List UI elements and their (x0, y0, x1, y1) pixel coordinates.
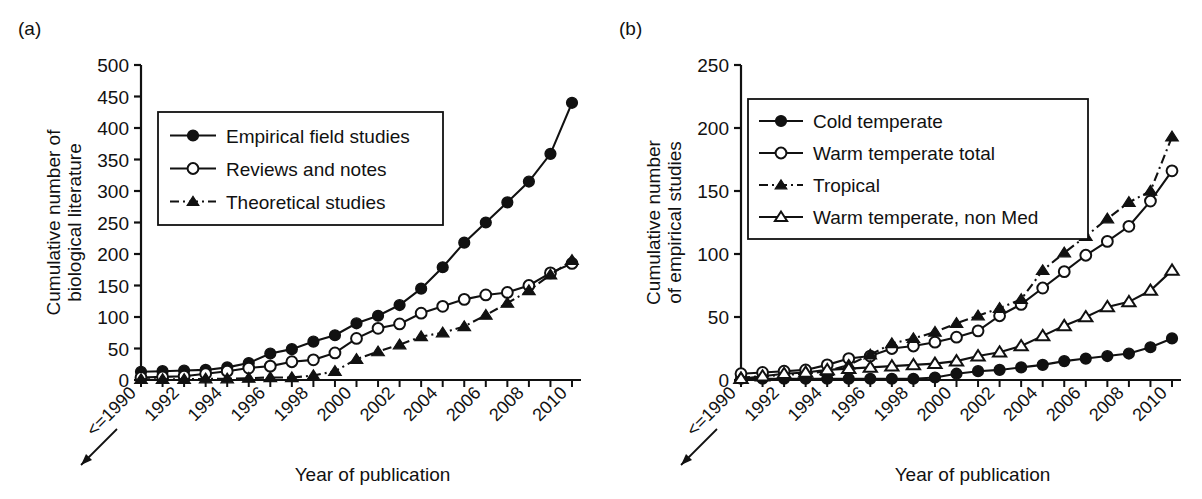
chart-panel-a: (a) 050100150200250300350400450500<=1990… (0, 0, 601, 499)
y-axis-title-group: Cumulative numberof empirical studies (643, 139, 685, 304)
x-tick-label: 2008 (485, 383, 527, 425)
x-tick-label: 2006 (442, 383, 484, 425)
data-point-marker (930, 337, 941, 348)
data-point-marker (951, 368, 962, 379)
x-tick-label: 1992 (740, 383, 782, 425)
data-point-marker (416, 308, 427, 319)
legend-label: Empirical field studies (226, 126, 410, 147)
data-point-marker (1122, 296, 1135, 306)
data-point-marker (1102, 351, 1113, 362)
y-axis-title-line1: Cumulative number of (43, 129, 64, 316)
data-point-marker (286, 356, 297, 367)
data-point-marker (1166, 131, 1179, 141)
data-point-marker (1124, 348, 1135, 359)
x-tick-label-group: 2008 (1085, 383, 1127, 425)
legend-label: Reviews and notes (226, 159, 387, 180)
data-point-marker (265, 361, 276, 372)
x-tick-label-group: 2004 (399, 383, 441, 425)
data-point-marker (973, 325, 984, 336)
data-point-marker (1036, 330, 1049, 340)
x-tick-label-group: 1992 (740, 383, 782, 425)
x-tick-label-group: 1998 (870, 383, 912, 425)
data-point-marker (502, 287, 513, 298)
x-tick-label-group: 1994 (784, 383, 826, 425)
x-tick-label-group: 2006 (442, 383, 484, 425)
data-point-marker (1016, 362, 1027, 373)
y-tick-label: 200 (697, 118, 729, 139)
y-tick-label: 100 (697, 244, 729, 265)
x-tick-label: 2010 (1128, 383, 1170, 425)
legend-sample-marker (188, 130, 199, 141)
x-tick-label: <=1990 (682, 383, 739, 440)
x-tick-label-group: <=1990 (82, 383, 139, 440)
legend-sample-marker (776, 148, 787, 159)
data-point-marker (437, 262, 448, 273)
x-tick-label-group: 1998 (270, 383, 312, 425)
data-point-marker (308, 354, 319, 365)
legend-label: Cold temperate (813, 111, 943, 132)
legend-sample-marker (188, 163, 199, 174)
x-tick-label-group: 1996 (227, 383, 269, 425)
data-point-marker (843, 373, 854, 384)
data-point-marker (265, 348, 276, 359)
x-tick-label-group: 2000 (313, 383, 355, 425)
panel-a-label: (a) (18, 18, 41, 40)
x-tick-label: 1994 (784, 383, 826, 425)
legend-sample-marker (776, 116, 787, 127)
x-tick-label-group: 1992 (140, 383, 182, 425)
x-tick-label: 2006 (1042, 383, 1084, 425)
y-tick-label: 250 (697, 55, 729, 76)
x-tick-label: 2000 (913, 383, 955, 425)
data-point-marker (545, 148, 556, 159)
data-point-marker (480, 309, 493, 319)
data-point-marker (951, 332, 962, 343)
data-point-marker (373, 310, 384, 321)
figure-container: (a) 050100150200250300350400450500<=1990… (0, 0, 1202, 499)
x-tick-label-group: 2008 (485, 383, 527, 425)
legend-label: Warm temperate, non Med (813, 207, 1038, 228)
data-point-marker (567, 97, 578, 108)
x-tick-label: 1998 (870, 383, 912, 425)
data-point-marker (1079, 311, 1092, 321)
y-axis-title-line1: Cumulative number (643, 139, 664, 304)
y-tick-label: 200 (97, 244, 129, 265)
x-tick-label-group: 2000 (913, 383, 955, 425)
x-tick-label: <=1990 (82, 383, 139, 440)
x-tick-label-group: 2002 (356, 383, 398, 425)
x-tick-label-group: 2010 (528, 383, 570, 425)
data-point-marker (372, 346, 385, 356)
x-tick-label: 1996 (827, 383, 869, 425)
data-point-marker (994, 365, 1005, 376)
chart-panel-b: (b) 050100150200250<=1990199219941996199… (601, 0, 1202, 499)
x-tick-label-group: 1994 (184, 383, 226, 425)
y-tick-label: 300 (97, 181, 129, 202)
x-tick-label-group: <=1990 (682, 383, 739, 440)
data-point-marker (501, 297, 514, 307)
data-point-marker (416, 283, 427, 294)
x-tick-label: 1998 (270, 383, 312, 425)
y-tick-label: 250 (97, 213, 129, 234)
x-tick-label: 2004 (399, 383, 441, 425)
data-point-marker (865, 373, 876, 384)
data-point-marker (459, 237, 470, 248)
data-point-marker (1080, 353, 1091, 364)
y-axis-title-group: Cumulative number ofbiological literatur… (43, 129, 85, 316)
data-point-marker (437, 301, 448, 312)
legend-label: Warm temperate total (813, 143, 995, 164)
data-point-marker (1080, 250, 1091, 261)
data-point-marker (1167, 333, 1178, 344)
y-tick-label: 350 (97, 150, 129, 171)
legend-label: Tropical (813, 175, 880, 196)
data-point-marker (394, 300, 405, 311)
y-axis-title-line2: biological literature (64, 143, 85, 301)
data-point-marker (1124, 221, 1135, 232)
x-tick-label: 1994 (184, 383, 226, 425)
x-tick-label: 2002 (956, 383, 998, 425)
data-point-marker (330, 348, 341, 359)
legend-label: Theoretical studies (226, 192, 385, 213)
data-point-marker (394, 319, 405, 330)
x-tick-label-group: 2006 (1042, 383, 1084, 425)
data-point-marker (459, 294, 470, 305)
x-tick-label-group: 2004 (999, 383, 1041, 425)
y-tick-label: 50 (108, 339, 129, 360)
